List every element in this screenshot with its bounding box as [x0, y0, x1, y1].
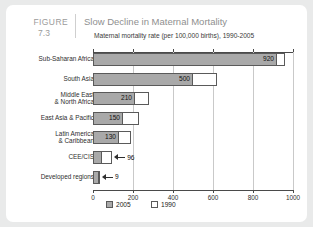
figure-number: 7.3 [20, 28, 68, 38]
legend-label: 1990 [161, 201, 176, 208]
axis-tick [213, 49, 214, 52]
bar-value-label: 9 [115, 173, 119, 180]
value-leader-line [118, 157, 125, 158]
bar-value-label: 920 [263, 55, 274, 62]
value-axis-area: 02004006008001000 920500210150130969 [93, 49, 293, 194]
bar-row: 500 [93, 73, 293, 86]
axis-tick [253, 190, 254, 193]
axis-tick [173, 49, 174, 52]
axis-tick [93, 190, 94, 193]
axis-tick-label: 0 [91, 194, 95, 201]
chart-legend: 20051990 [6, 201, 307, 215]
axis-tick [213, 190, 214, 193]
axis-tick [93, 49, 94, 52]
bar-value-label: 150 [109, 114, 120, 121]
figure-header: FIGURE 7.3 Slow Decline in Maternal Mort… [6, 13, 307, 47]
axis-tick-label: 200 [128, 194, 139, 201]
category-label: Developed regions [41, 173, 94, 180]
bar-row: 130 [93, 131, 293, 144]
bar-row: 210 [93, 92, 293, 105]
axis-tick [253, 49, 254, 52]
legend-item: 2005 [106, 201, 131, 208]
axis-tick [293, 190, 294, 193]
gridline [293, 52, 294, 190]
legend-swatch [151, 201, 158, 208]
bar-2005 [93, 53, 277, 66]
chart-plot-area: Sub-Saharan AfricaSouth AsiaMiddle East&… [6, 49, 307, 197]
chart-subtitle: Maternal mortality rate (per 100,000 bir… [94, 32, 254, 39]
bar-2005 [93, 171, 99, 184]
axis-line-bottom [93, 190, 293, 191]
value-leader-line [106, 177, 113, 178]
legend-swatch [106, 201, 113, 208]
bar-value-label: 130 [105, 133, 116, 140]
axis-tick-label: 600 [208, 194, 219, 201]
bar-row: 9 [93, 171, 293, 184]
bar-row: 920 [93, 53, 293, 66]
axis-tick [293, 49, 294, 52]
legend-label: 2005 [116, 201, 131, 208]
bar-value-label: 96 [127, 154, 134, 161]
header-divider [75, 14, 76, 38]
chart-title: Slow Decline in Maternal Mortality [84, 16, 227, 27]
axis-tick-label: 400 [168, 194, 179, 201]
category-label: South Asia [63, 75, 94, 82]
bar-value-label: 500 [179, 75, 190, 82]
category-label: CEE/CIS [68, 153, 94, 160]
bar-value-label: 210 [121, 94, 132, 101]
axis-tick-label: 1000 [286, 194, 300, 201]
category-label: Latin America& Caribbean [55, 130, 94, 145]
axis-tick [133, 190, 134, 193]
category-label: Middle East& North Africa [55, 91, 94, 106]
axis-tick [133, 49, 134, 52]
axis-tick [173, 190, 174, 193]
figure-card: FIGURE 7.3 Slow Decline in Maternal Mort… [6, 5, 307, 222]
category-label: Sub-Saharan Africa [39, 55, 94, 62]
category-label: East Asia & Pacific [41, 114, 94, 121]
bar-row: 150 [93, 112, 293, 125]
legend-item: 1990 [151, 201, 176, 208]
bar-row: 96 [93, 151, 293, 164]
axis-tick-label: 800 [248, 194, 259, 201]
bar-2005 [93, 151, 102, 164]
figure-label: FIGURE [20, 17, 68, 27]
